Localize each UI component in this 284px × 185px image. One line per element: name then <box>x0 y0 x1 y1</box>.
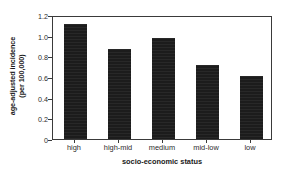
x-axis-title: socio-economic status <box>52 157 272 166</box>
y-tick-label: 1.2 <box>38 12 48 21</box>
x-tick-label: low <box>244 143 255 152</box>
x-tick-label: medium <box>149 143 175 152</box>
bar <box>196 65 219 139</box>
y-axis-title-line2: (per 100,000) <box>17 37 26 116</box>
bar <box>108 49 131 139</box>
bar <box>152 38 175 139</box>
x-tick-label: mid-low <box>193 143 218 152</box>
bar <box>64 24 87 139</box>
x-tick-label: high <box>67 143 81 152</box>
y-axis-title: age-adjusted incidence (per 100,000) <box>0 12 34 140</box>
y-tick-label: 0.6 <box>38 74 48 83</box>
x-tick-mark <box>250 140 251 143</box>
x-tick-mark <box>74 140 75 143</box>
bar <box>240 76 263 139</box>
bar-chart-figure: age-adjusted incidence (per 100,000) 00.… <box>0 0 284 185</box>
y-tick-label: 1.0 <box>38 32 48 41</box>
y-tick-mark <box>48 140 52 141</box>
y-tick-label: 0.2 <box>38 115 48 124</box>
x-tick-mark <box>118 140 119 143</box>
x-tick-label: high-mid <box>104 143 132 152</box>
y-tick-label: 0.4 <box>38 94 48 103</box>
y-axis-title-text: age-adjusted incidence (per 100,000) <box>8 37 26 116</box>
x-tick-mark <box>162 140 163 143</box>
y-axis-title-line1: age-adjusted incidence <box>8 37 17 116</box>
plot-area <box>52 16 272 140</box>
x-tick-mark <box>206 140 207 143</box>
y-tick-label: 0.8 <box>38 53 48 62</box>
